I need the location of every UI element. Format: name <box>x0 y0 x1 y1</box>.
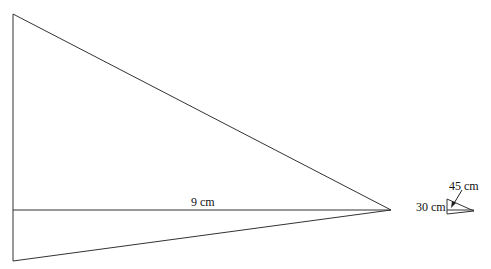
small-triangle-bottom-edge <box>447 211 474 214</box>
small-triangle-top-label: 45 cm <box>449 180 479 192</box>
small-triangle-top-edge <box>447 199 474 211</box>
small-triangle-side-label: 30 cm <box>416 201 446 213</box>
small-triangle <box>447 199 474 214</box>
large-triangle-top-edge <box>13 14 391 210</box>
large-triangle-bottom-edge <box>13 210 391 261</box>
large-triangle-base-label: 9 cm <box>191 196 215 208</box>
diagram-canvas <box>0 0 491 269</box>
large-triangle <box>13 14 391 261</box>
